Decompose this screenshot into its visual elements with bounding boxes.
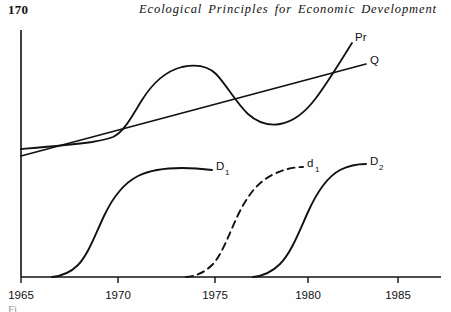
x-axis-tick-labels: 1965 1970 1975 1980 1985: [8, 289, 411, 301]
curve-d1-lowercase: [186, 167, 303, 277]
label-d2-subscript: 2: [379, 163, 384, 172]
curve-labels: Pr Q D 1 d 1 D 2: [216, 31, 384, 177]
curve-q: [21, 64, 366, 156]
label-d2: D: [370, 155, 378, 167]
x-tick-label-1965: 1965: [8, 289, 34, 301]
label-d1-subscript: 1: [225, 168, 230, 177]
book-page: 170 Ecological Principles for Economic D…: [0, 0, 451, 312]
label-d1: D: [216, 160, 224, 172]
label-d2-group: D 2: [370, 155, 384, 172]
curve-d1: [52, 168, 212, 277]
label-pr: Pr: [355, 31, 367, 43]
x-tick-label-1985: 1985: [385, 289, 411, 301]
x-axis-ticks: [21, 277, 398, 283]
label-d1-lowercase: d: [307, 157, 313, 169]
curve-d2: [253, 164, 366, 277]
label-q: Q: [370, 54, 379, 66]
label-d1-lowercase-group: d 1: [307, 157, 320, 174]
x-tick-label-1975: 1975: [202, 289, 228, 301]
figure-svg: 1965 1970 1975 1980 1985 Pr Q D: [0, 20, 451, 312]
label-d1-lowercase-subscript: 1: [315, 165, 320, 174]
figure-caption-partial: Fi: [8, 303, 128, 312]
curve-pr: [21, 43, 352, 149]
figure-plot-area: 1965 1970 1975 1980 1985 Pr Q D: [0, 20, 451, 312]
running-head-title: Ecological Principles for Economic Devel…: [0, 2, 445, 17]
x-tick-label-1980: 1980: [295, 289, 321, 301]
x-tick-label-1970: 1970: [105, 289, 131, 301]
label-d1-group: D 1: [216, 160, 230, 177]
